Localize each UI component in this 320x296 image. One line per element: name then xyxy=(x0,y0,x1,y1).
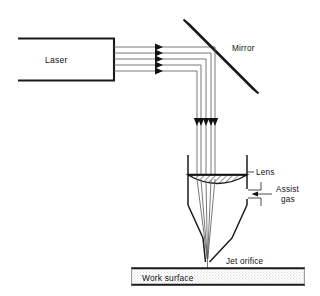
label-lens: Lens xyxy=(256,168,275,177)
assist-gas-port xyxy=(248,182,272,206)
laser-cutting-diagram: Laser Mirror Lens Assist gas Jet orifice… xyxy=(0,0,320,296)
label-assist-gas-line1: Assist xyxy=(276,185,300,194)
beam-arrow-icon xyxy=(155,68,163,75)
beam-arrow-icon xyxy=(155,44,163,51)
label-assist-gas-line2: gas xyxy=(281,195,295,204)
beam-arrow-icon xyxy=(203,118,209,126)
converging-beam-group xyxy=(197,179,215,268)
beam-arrow-icon xyxy=(155,62,163,69)
beam-arrow-icon xyxy=(198,118,204,126)
assist-gas-arrow-icon xyxy=(252,191,259,196)
beam-arrow-icon xyxy=(155,56,163,63)
diagram-canvas: Laser Mirror Lens Assist gas Jet orifice… xyxy=(0,0,320,296)
label-work-surface: Work surface xyxy=(142,273,194,283)
beam-arrow-icon xyxy=(155,50,163,57)
label-jet-orifice: Jet orifice xyxy=(226,257,263,266)
horizontal-beam-group xyxy=(114,44,215,75)
vertical-beam-group xyxy=(194,47,218,175)
label-mirror: Mirror xyxy=(232,44,255,53)
mirror xyxy=(184,20,259,94)
beam-arrow-icon xyxy=(212,118,218,126)
label-laser: Laser xyxy=(45,55,68,65)
